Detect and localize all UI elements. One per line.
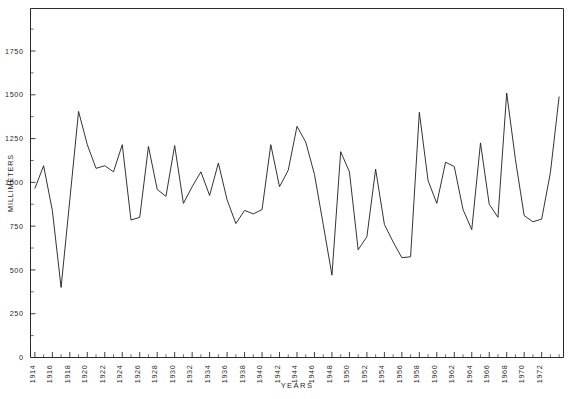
y-tick-label: 1500	[5, 90, 23, 99]
x-tick-label: 1970	[517, 365, 526, 384]
x-tick-label: 1952	[360, 365, 369, 384]
x-tick-label: 1954	[377, 365, 386, 384]
x-tick-label: 1948	[325, 365, 334, 384]
x-tick-label: 1940	[255, 365, 264, 384]
y-tick-label: 250	[10, 309, 24, 318]
x-tick-label: 1928	[150, 365, 159, 384]
chart-canvas: 02505007501000125015001750 1914191619181…	[0, 0, 576, 399]
x-tick-label: 1914	[28, 365, 37, 384]
x-tick-label: 1964	[465, 365, 474, 384]
x-tick-label: 1958	[412, 365, 421, 384]
x-tick-label: 1932	[185, 365, 194, 384]
x-tick-label: 1956	[395, 365, 404, 384]
x-tick-label: 1926	[133, 365, 142, 384]
y-tick-label: 1250	[5, 134, 23, 143]
x-tick-label: 1936	[220, 365, 229, 384]
y-tick-label: 0	[19, 353, 24, 362]
y-tick-label: 750	[10, 222, 24, 231]
y-axis-title: MILLIMETERS	[6, 154, 15, 212]
x-tick-label: 1916	[45, 365, 54, 384]
x-axis-title: YEARS	[281, 381, 314, 390]
x-tick-label: 1938	[238, 365, 247, 384]
rainfall-time-series-figure: 02505007501000125015001750 1914191619181…	[0, 0, 576, 399]
x-tick-label: 1960	[430, 365, 439, 384]
x-tick-label: 1934	[203, 365, 212, 384]
x-tick-label: 1966	[482, 365, 491, 384]
x-tick-label: 1962	[447, 365, 456, 384]
x-tick-label: 1918	[63, 365, 72, 384]
y-tick-label: 500	[10, 266, 24, 275]
x-tick-label: 1920	[80, 365, 89, 384]
x-tick-label: 1922	[98, 365, 107, 384]
x-tick-label: 1950	[342, 365, 351, 384]
x-tick-label: 1924	[115, 365, 124, 384]
x-tick-label: 1930	[168, 365, 177, 384]
x-tick-label: 1968	[500, 365, 509, 384]
x-tick-label: 1972	[535, 365, 544, 384]
figure-background	[0, 0, 576, 399]
y-tick-label: 1750	[5, 47, 23, 56]
